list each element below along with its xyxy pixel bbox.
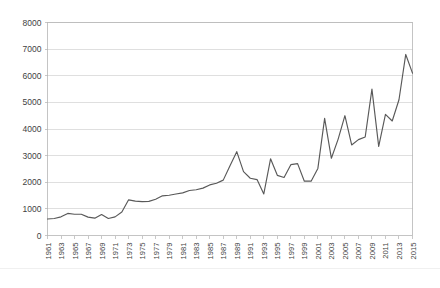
x-tick-label: 1965 (71, 243, 80, 260)
gridlines (45, 23, 413, 236)
chart-canvas: 800070006000500040003000200010000 196119… (0, 0, 440, 288)
x-tick-label: 1995 (273, 243, 282, 260)
x-tick-label: 1973 (125, 243, 134, 260)
x-tick-label: 1997 (287, 243, 296, 260)
x-tick-label: 1967 (84, 243, 93, 260)
x-tick-label: 1971 (111, 243, 120, 260)
y-axis-tick-labels: 800070006000500040003000200010000 (23, 18, 42, 241)
x-tick-label: 2007 (354, 243, 363, 260)
x-tick-label: 1983 (192, 243, 201, 260)
y-tick-label: 4000 (23, 124, 42, 134)
y-tick-label: 2000 (23, 177, 42, 187)
x-tick-label: 2003 (327, 243, 336, 260)
x-tick-label: 1975 (138, 243, 147, 260)
x-tick-label: 1963 (57, 243, 66, 260)
y-tick-label: 6000 (23, 71, 42, 81)
x-tick-label: 1985 (206, 243, 215, 260)
y-tick-label: 7000 (23, 44, 42, 54)
y-tick-label: 1000 (23, 204, 42, 214)
x-tick-label: 1993 (260, 243, 269, 260)
x-tick-label: 1979 (165, 243, 174, 260)
x-tick-label: 1969 (98, 243, 107, 260)
x-tick-label: 2001 (314, 243, 323, 260)
x-tick-label: 1989 (233, 243, 242, 260)
x-tick-label: 1991 (246, 243, 255, 260)
line-chart-figure: 800070006000500040003000200010000 196119… (0, 0, 440, 288)
y-tick-label: 3000 (23, 151, 42, 161)
x-tick-label: 1961 (44, 243, 53, 260)
x-tick-label: 2015 (409, 243, 418, 260)
x-tick-label: 1981 (179, 243, 188, 260)
y-tick-label: 5000 (23, 97, 42, 107)
x-axis-tick-labels: 1961196319651967196919711973197519771979… (44, 243, 418, 260)
data-series-line (48, 54, 413, 219)
x-tick-label: 1977 (152, 243, 161, 260)
y-tick-label: 8000 (23, 18, 42, 28)
x-axis-tick-marks (48, 236, 413, 239)
x-tick-label: 1999 (300, 243, 309, 260)
x-tick-label: 2011 (381, 243, 390, 259)
x-tick-label: 2005 (341, 243, 350, 260)
x-tick-label: 2009 (368, 243, 377, 260)
x-tick-label: 2013 (395, 243, 404, 260)
footer-divider (0, 268, 440, 269)
y-tick-label: 0 (37, 231, 42, 241)
x-tick-label: 1987 (219, 243, 228, 260)
